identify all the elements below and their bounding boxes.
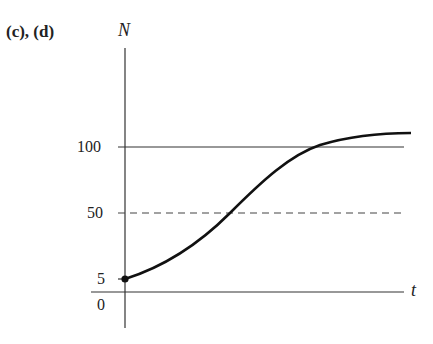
initial-point bbox=[121, 275, 128, 282]
plot-area bbox=[0, 0, 433, 344]
logistic-curve bbox=[125, 133, 411, 279]
